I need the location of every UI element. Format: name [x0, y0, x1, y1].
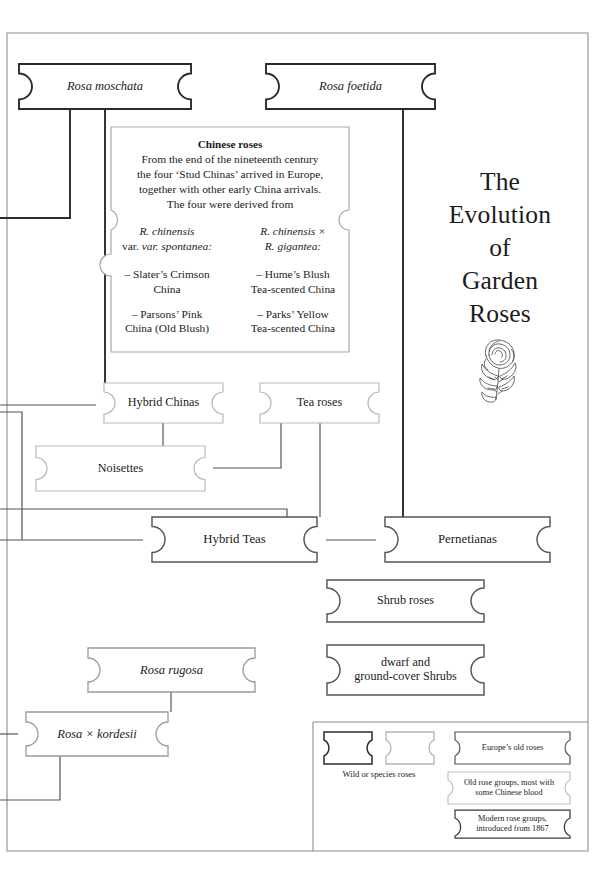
- legend-text-2: Old rose groups, most withsome Chinese b…: [464, 778, 554, 799]
- node-shape-shrub-roses: [327, 580, 484, 622]
- legend-text-3: Modern rose groups,introduced from 1867: [476, 814, 548, 835]
- stud-right-2-a: – Parks’ Yellow: [230, 307, 356, 322]
- stud-left-2-a: – Parsons’ Pink: [104, 307, 230, 322]
- node-shape-rosa-kordesii: [26, 712, 168, 756]
- parent-species-row: R. chinensis var. var. spontanea: R. chi…: [104, 224, 356, 254]
- stud-left-2: – Parsons’ Pink China (Old Blush): [104, 307, 230, 337]
- node-shape-hybrid-chinas: [104, 383, 223, 423]
- node-shape-dwarf-ground-cover: [327, 645, 484, 695]
- left-parent: R. chinensis var. var. spontanea:: [104, 224, 230, 254]
- legend-entry-old-rose-groups: Old rose groups, most withsome Chinese b…: [448, 772, 570, 804]
- node-shape-noisettes: [36, 446, 205, 491]
- stud-left-2-b: China (Old Blush): [104, 321, 230, 336]
- legend-entry-modern-rose-groups: Modern rose groups,introduced from 1867: [455, 810, 570, 838]
- diagram-canvas: Rosa moschataRosa foetidaHybrid ChinasTe…: [0, 0, 616, 888]
- node-shape-rosa-moschata: [19, 64, 191, 109]
- chinese-roses-box: Chinese roses From the end of the ninete…: [104, 126, 356, 353]
- right-parent-line-2: R. gigantea:: [230, 239, 356, 254]
- chinese-roses-body: From the end of the nineteenth century t…: [104, 152, 356, 212]
- body-line-4: The four were derived from: [104, 197, 356, 212]
- left-parent-line-1: R. chinensis: [104, 224, 230, 239]
- node-shape-rosa-foetida: [266, 64, 435, 109]
- body-line-1: From the end of the nineteenth century: [104, 152, 356, 167]
- legend-swatch-wild-light: [386, 732, 434, 764]
- title-line-2: Evolution: [420, 199, 580, 232]
- right-parent: R. chinensis × R. gigantea:: [230, 224, 356, 254]
- node-shape-hybrid-teas: [152, 517, 317, 562]
- legend-entry-europes-old-roses: Europe’s old roses: [455, 732, 570, 764]
- stud-china-row-1: – Slater’s Crimson China – Hume’s Blush …: [104, 267, 356, 297]
- body-line-2: the four ‘Stud Chinas’ arrived in Europe…: [104, 167, 356, 182]
- title-line-5: Roses: [420, 298, 580, 331]
- legend-wild-label: Wild or species roses: [318, 769, 440, 779]
- stud-left-1: – Slater’s Crimson China: [104, 267, 230, 297]
- node-shape-tea-roses: [260, 383, 379, 423]
- stud-left-1-a: – Slater’s Crimson: [104, 267, 230, 282]
- legend-swatch-wild-dark: [324, 732, 372, 764]
- stud-right-1-a: – Hume’s Blush: [230, 267, 356, 282]
- stud-china-row-2: – Parsons’ Pink China (Old Blush) – Park…: [104, 307, 356, 337]
- right-parent-line-1: R. chinensis ×: [230, 224, 356, 239]
- left-parent-line-2: var. var. spontanea:: [104, 239, 230, 254]
- stud-left-1-b: China: [104, 282, 230, 297]
- node-shape-pernetianas: [385, 517, 550, 562]
- stud-right-1-b: Tea-scented China: [230, 282, 356, 297]
- title-line-3: of: [420, 232, 580, 265]
- node-shape-rosa-rugosa: [88, 648, 255, 692]
- stud-right-2-b: Tea-scented China: [230, 321, 356, 336]
- left-parent-epithet: var. spontanea:: [142, 240, 212, 252]
- body-line-3: together with other early China arrivals…: [104, 182, 356, 197]
- chinese-roses-heading: Chinese roses: [104, 138, 356, 150]
- title-line-4: Garden: [420, 265, 580, 298]
- page-title: The Evolution of Garden Roses: [420, 166, 580, 330]
- stud-right-2: – Parks’ Yellow Tea-scented China: [230, 307, 356, 337]
- legend: Wild or species roses Europe’s old roses…: [318, 728, 582, 840]
- legend-text-1: Europe’s old roses: [482, 743, 543, 753]
- rose-illustration-icon: [458, 332, 534, 410]
- title-line-1: The: [420, 166, 580, 199]
- stud-right-1: – Hume’s Blush Tea-scented China: [230, 267, 356, 297]
